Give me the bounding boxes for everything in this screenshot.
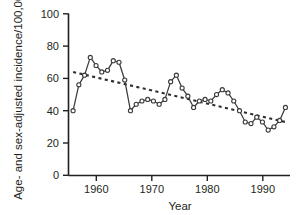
x-tick-label-1970: 1970 [140, 183, 164, 195]
data-point-marker [192, 105, 196, 109]
data-point-marker [220, 88, 224, 92]
incidence-line-series [73, 57, 285, 130]
data-point-marker [255, 115, 259, 119]
y-tick-label-100: 100 [41, 8, 59, 20]
data-point-marker [94, 63, 98, 67]
data-point-marker [237, 109, 241, 113]
data-point-marker [266, 128, 270, 132]
data-point-marker [105, 68, 109, 72]
data-point-marker [203, 97, 207, 101]
data-point-marker [117, 60, 121, 64]
x-tick-label-1990: 1990 [251, 183, 275, 195]
data-point-marker [174, 73, 178, 77]
data-point-marker [140, 99, 144, 103]
y-tick-label-80: 80 [47, 40, 59, 52]
y-axis-ticks [63, 14, 69, 176]
data-point-marker [243, 120, 247, 124]
data-point-marker [128, 109, 132, 113]
data-point-marker [278, 118, 282, 122]
data-point-marker [283, 105, 287, 109]
x-tick-label-1980: 1980 [195, 183, 219, 195]
data-point-marker [151, 99, 155, 103]
data-point-marker [71, 109, 75, 113]
y-tick-label-40: 40 [47, 105, 59, 117]
data-point-marker [163, 97, 167, 101]
x-axis-title: Year [168, 200, 191, 212]
trend-polyline [73, 72, 285, 122]
data-point-marker [197, 99, 201, 103]
data-point-marker [88, 55, 92, 59]
data-point-marker [209, 99, 213, 103]
data-point-marker [134, 102, 138, 106]
data-point-marker [249, 122, 253, 126]
x-axis-tick-labels: 1960 1970 1980 1990 [84, 183, 275, 195]
y-axis-tick-labels: 100 80 60 40 20 0 [41, 8, 59, 182]
incidence-polyline [73, 57, 285, 130]
data-point-marker [77, 83, 81, 87]
data-point-marker [157, 102, 161, 106]
data-point-marker [111, 59, 115, 63]
y-axis-title: Age- and sex-adjusted incidence/100,000 [12, 0, 24, 200]
data-point-marker [272, 125, 276, 129]
y-tick-label-0: 0 [53, 169, 59, 181]
y-tick-label-20: 20 [47, 137, 59, 149]
data-point-marker [169, 80, 173, 84]
data-point-marker [226, 91, 230, 95]
data-point-marker [215, 93, 219, 97]
incidence-trend-chart: 100 80 60 40 20 0 1960 1970 1980 1990 Ye… [0, 0, 296, 215]
y-tick-label-60: 60 [47, 72, 59, 84]
data-point-marker [123, 78, 127, 82]
data-point-marker [186, 94, 190, 98]
data-point-marker [83, 73, 87, 77]
data-point-marker [180, 86, 184, 90]
trend-line-series [73, 72, 285, 122]
x-tick-label-1960: 1960 [84, 183, 108, 195]
axes [69, 14, 291, 176]
incidence-markers [71, 55, 287, 132]
data-point-marker [260, 120, 264, 124]
data-point-marker [232, 99, 236, 103]
data-point-marker [100, 70, 104, 74]
data-point-marker [146, 97, 150, 101]
x-axis-ticks [96, 176, 262, 182]
